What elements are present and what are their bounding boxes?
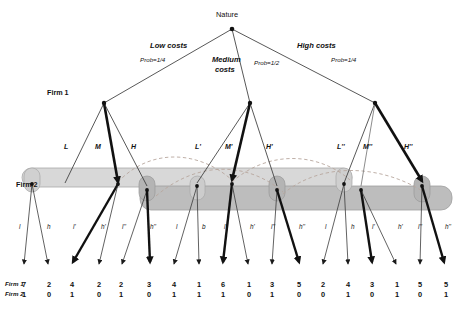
payoff-firm1-14: 4 bbox=[342, 281, 354, 288]
payoff-firm2-8: 1 bbox=[193, 291, 205, 298]
f2-action-6b: h'' bbox=[299, 224, 305, 230]
payoff-firm1-2: 2 bbox=[43, 281, 55, 288]
action-M: M bbox=[95, 143, 101, 150]
payoff-firm1-4: 2 bbox=[93, 281, 105, 288]
payoff-firm2-7: 1 bbox=[168, 291, 180, 298]
f2-action-1a: l bbox=[19, 224, 20, 230]
firm2-label: Firm 2 bbox=[16, 181, 38, 188]
node-firm1-medium bbox=[248, 101, 252, 105]
payoff-firm1-6: 3 bbox=[143, 281, 155, 288]
node-nature bbox=[230, 27, 235, 32]
branch-label-medium-costs-line2: costs bbox=[215, 66, 235, 74]
firm1-label: Firm 1 bbox=[47, 89, 69, 96]
branch-prob-high-costs: Prob=1/4 bbox=[331, 57, 356, 63]
payoff-firm2-18: 1 bbox=[440, 291, 452, 298]
payoff-firm1-1: 7 bbox=[18, 281, 30, 288]
infoset-upper bbox=[22, 168, 352, 187]
payoff-firm1-9: 6 bbox=[217, 281, 229, 288]
action-L1: L' bbox=[195, 143, 201, 150]
payoff-firm2-15: 0 bbox=[366, 291, 378, 298]
payoff-firm2-9: 1 bbox=[217, 291, 229, 298]
branch-label-low-costs: Low costs bbox=[150, 42, 187, 50]
f2-action-2a: l' bbox=[73, 224, 76, 230]
f2-action-9a: l'' bbox=[418, 224, 422, 230]
action-H1: H' bbox=[266, 143, 273, 150]
action-H: H bbox=[131, 143, 136, 150]
action-M1: M' bbox=[225, 143, 233, 150]
f2-action-1b: h bbox=[47, 224, 51, 230]
payoff-firm2-2: 0 bbox=[43, 291, 55, 298]
payoff-firm2-12: 0 bbox=[293, 291, 305, 298]
f2-action-9b: h'' bbox=[445, 224, 451, 230]
action-M2: M'' bbox=[363, 143, 372, 150]
branch-prob-medium-costs: Prob=1/2 bbox=[254, 60, 279, 66]
f2-action-4a: l bbox=[176, 224, 177, 230]
payoff-firm2-4: 0 bbox=[93, 291, 105, 298]
payoff-firm1-7: 4 bbox=[168, 281, 180, 288]
infoset-lower bbox=[140, 186, 452, 210]
f2-action-7b: h bbox=[351, 224, 355, 230]
action-L: L bbox=[64, 143, 68, 150]
payoff-firm1-11: 3 bbox=[266, 281, 278, 288]
branch-prob-low-costs: Prob=1/4 bbox=[140, 57, 165, 63]
game-tree-figure: Nature Low costs Prob=1/4 Medium costs P… bbox=[0, 0, 464, 315]
branch-label-high-costs: High costs bbox=[297, 42, 336, 50]
payoff-firm2-17: 0 bbox=[414, 291, 426, 298]
branch-label-medium-costs-line1: Medium bbox=[212, 56, 241, 64]
payoff-firm1-15: 3 bbox=[366, 281, 378, 288]
f2-action-4b: b bbox=[202, 224, 206, 230]
f2-action-3a: l'' bbox=[122, 224, 126, 230]
payoff-firm1-3: 4 bbox=[66, 281, 78, 288]
f2-action-6a: l'' bbox=[271, 224, 275, 230]
f2-action-7a: l bbox=[325, 224, 326, 230]
f2-action-5a: l' bbox=[224, 224, 227, 230]
payoff-firm1-8: 1 bbox=[193, 281, 205, 288]
payoff-firm1-10: 1 bbox=[243, 281, 255, 288]
payoff-firm2-1: 1 bbox=[18, 291, 30, 298]
payoff-firm1-5: 2 bbox=[115, 281, 127, 288]
payoff-firm1-17: 5 bbox=[414, 281, 426, 288]
payoff-firm2-3: 1 bbox=[66, 291, 78, 298]
tree-nodes bbox=[30, 27, 424, 192]
tree-canvas bbox=[0, 0, 464, 315]
payoff-firm2-10: 0 bbox=[243, 291, 255, 298]
node-firm1-high bbox=[373, 101, 377, 105]
nature-label: Nature bbox=[216, 11, 238, 18]
f2-action-8a: l' bbox=[372, 224, 375, 230]
node-firm1-low bbox=[102, 101, 106, 105]
payoff-firm2-14: 1 bbox=[342, 291, 354, 298]
f2-action-2b: h' bbox=[101, 224, 106, 230]
f2-action-3b: h'' bbox=[150, 224, 156, 230]
action-L2: L'' bbox=[337, 143, 345, 150]
payoff-firm2-16: 1 bbox=[391, 291, 403, 298]
payoff-firm1-12: 5 bbox=[293, 281, 305, 288]
payoff-firm2-13: 0 bbox=[317, 291, 329, 298]
payoff-firm2-5: 1 bbox=[115, 291, 127, 298]
f2-action-8b: h' bbox=[398, 224, 403, 230]
action-H2: H'' bbox=[404, 143, 412, 150]
payoff-firm2-11: 1 bbox=[266, 291, 278, 298]
f2-action-5b: h' bbox=[250, 224, 255, 230]
payoff-firm1-16: 1 bbox=[391, 281, 403, 288]
payoff-firm1-13: 2 bbox=[317, 281, 329, 288]
payoff-firm2-6: 0 bbox=[143, 291, 155, 298]
payoff-firm1-18: 5 bbox=[440, 281, 452, 288]
